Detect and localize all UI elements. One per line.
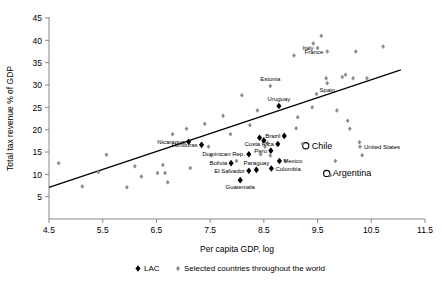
- x-tick-label: 11.5: [417, 225, 433, 235]
- y-tick-label: 15: [33, 147, 43, 157]
- x-axis-title: Per capita GDP, log: [200, 244, 274, 254]
- data-point-unlabeled: [320, 34, 323, 38]
- data-point-unlabeled: [140, 175, 143, 179]
- data-point-unlabeled: [57, 161, 60, 165]
- point-label-paraguay: Paraguay: [243, 160, 269, 166]
- x-tick-label: 10.5: [363, 225, 380, 235]
- y-tick-label: 20: [33, 125, 43, 135]
- data-point-uruguay: [276, 103, 281, 110]
- data-point-unlabeled: [292, 54, 295, 58]
- data-point-unlabeled: [207, 145, 210, 149]
- point-label-chile: Chile: [312, 141, 333, 151]
- data-point-mexico: [277, 158, 282, 165]
- data-point-unlabeled: [348, 127, 351, 131]
- data-point-united-states: [358, 145, 361, 149]
- data-point-unlabeled: [382, 45, 385, 49]
- data-point-costa-rica: [275, 141, 280, 148]
- point-label-honduras: Honduras: [172, 142, 198, 148]
- point-labels: NicaraguaHondurasDominican Rep.BoliviaPa…: [157, 45, 400, 190]
- point-label-dominican-rep-: Dominican Rep.: [202, 151, 245, 157]
- data-point-unlabeled: [125, 185, 128, 189]
- x-tick-label: 5.5: [97, 225, 109, 235]
- y-tick-label: 45: [33, 13, 43, 23]
- data-point-unlabeled: [189, 166, 192, 170]
- data-point-unlabeled: [296, 115, 299, 119]
- y-axis-title: Total tax revenue % of GDP: [5, 66, 15, 171]
- point-label-argentina: Argentina: [333, 168, 372, 178]
- y-tick-label: 10: [33, 170, 43, 180]
- data-point-unlabeled: [161, 163, 164, 167]
- point-label-peru: Peru: [254, 148, 267, 154]
- data-point-peru: [268, 147, 273, 154]
- data-point-france: [326, 50, 329, 54]
- data-point-honduras: [199, 142, 204, 149]
- data-point-unlabeled: [171, 132, 174, 136]
- data-point-unlabeled: [311, 105, 314, 109]
- data-point-brazil: [282, 133, 287, 140]
- data-point-unlabeled: [335, 108, 338, 112]
- x-tick-label: 9.5: [312, 225, 324, 235]
- data-point-unlabeled: [221, 114, 224, 118]
- chart-legend: LACSelected countries throughout the wor…: [135, 264, 325, 273]
- data-point-unlabeled: [133, 164, 136, 168]
- y-tick-label: 30: [33, 80, 43, 90]
- legend-label-world: Selected countries throughout the world: [184, 264, 325, 273]
- data-point-unlabeled: [315, 92, 318, 96]
- data-point-colombia: [269, 165, 274, 172]
- y-tick-label: 25: [33, 103, 43, 113]
- data-point-unlabeled: [240, 93, 243, 97]
- data-point-guatemala: [238, 177, 243, 184]
- data-point-unlabeled: [325, 76, 328, 80]
- data-point-unlabeled: [351, 76, 354, 80]
- data-point-argentina: [324, 170, 330, 176]
- data-point-unlabeled: [185, 127, 188, 131]
- point-label-uruguay: Uruguay: [268, 96, 291, 102]
- data-point-unlabeled: [235, 159, 238, 163]
- data-point-unlabeled: [361, 153, 364, 157]
- data-point-bolivia: [229, 160, 234, 167]
- point-label-colombia: Colombia: [275, 166, 301, 172]
- data-point-unlabeled: [365, 76, 368, 80]
- data-point-unlabeled: [358, 140, 361, 144]
- x-tick-label: 8.5: [258, 225, 270, 235]
- data-point-unlabeled: [344, 73, 347, 77]
- data-point-unlabeled: [295, 126, 298, 130]
- point-label-guatemala: Guatemala: [226, 184, 256, 190]
- point-label-estonia: Estonia: [260, 76, 281, 82]
- point-label-spain: Spain: [320, 87, 335, 93]
- scatter-plot: 510152025303540454.55.56.57.58.59.510.51…: [0, 0, 442, 287]
- point-label-united-states: United States: [364, 144, 400, 150]
- data-point-unlabeled: [203, 122, 206, 126]
- point-label-france: France: [305, 49, 324, 55]
- data-point-spain: [326, 81, 329, 85]
- data-point-unlabeled: [354, 50, 357, 54]
- data-point-unlabeled: [256, 108, 259, 112]
- data-point-unlabeled: [81, 184, 84, 188]
- data-point-paraguay: [254, 167, 259, 174]
- data-point-unlabeled: [269, 154, 272, 158]
- chart-figure: 510152025303540454.55.56.57.58.59.510.51…: [0, 0, 442, 287]
- data-point-unlabeled: [229, 132, 232, 136]
- data-point-unlabeled: [334, 159, 337, 163]
- data-point-dominican-rep-: [246, 151, 251, 158]
- data-point-unlabeled: [156, 171, 159, 175]
- y-tick-label: 40: [33, 36, 43, 46]
- axes: 510152025303540454.55.56.57.58.59.510.51…: [33, 13, 434, 235]
- legend-label-lac: LAC: [144, 264, 160, 273]
- data-point-estonia: [269, 84, 272, 88]
- point-label-brazil: Brazil: [265, 133, 280, 139]
- data-point-unlabeled: [346, 119, 349, 123]
- y-tick-label: 5: [37, 192, 42, 202]
- data-point-unlabeled: [105, 153, 108, 157]
- x-tick-label: 4.5: [43, 225, 55, 235]
- point-label-mexico: Mexico: [283, 158, 303, 164]
- point-label-costa-rica: Costa Rica: [244, 141, 274, 147]
- legend-marker-world: [176, 266, 179, 270]
- data-point-unlabeled: [166, 180, 169, 184]
- point-label-el-salvador: El Salvador: [214, 168, 245, 174]
- data-point-unlabeled: [163, 171, 166, 175]
- legend-marker-lac: [135, 265, 140, 272]
- x-tick-label: 6.5: [151, 225, 163, 235]
- point-label-bolivia: Bolivia: [209, 160, 227, 166]
- data-point-el-salvador: [246, 167, 251, 174]
